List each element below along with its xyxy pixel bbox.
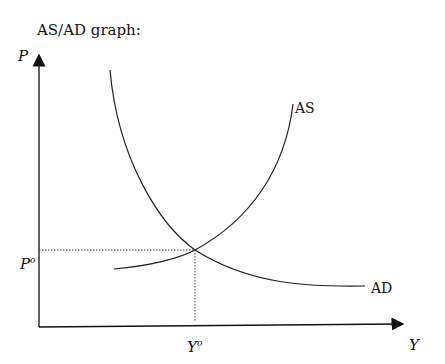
ad-curve	[110, 70, 365, 286]
as-label: AS	[295, 101, 315, 115]
x-axis	[39, 324, 398, 327]
as-ad-diagram	[0, 0, 445, 364]
ad-label: AD	[371, 281, 392, 295]
output-equilibrium-label: Yo	[187, 339, 202, 355]
price-equilibrium-label: Po	[20, 256, 36, 272]
y-axis-label: P	[18, 49, 28, 64]
x-axis-label: Y	[409, 338, 419, 353]
as-curve	[114, 104, 293, 269]
